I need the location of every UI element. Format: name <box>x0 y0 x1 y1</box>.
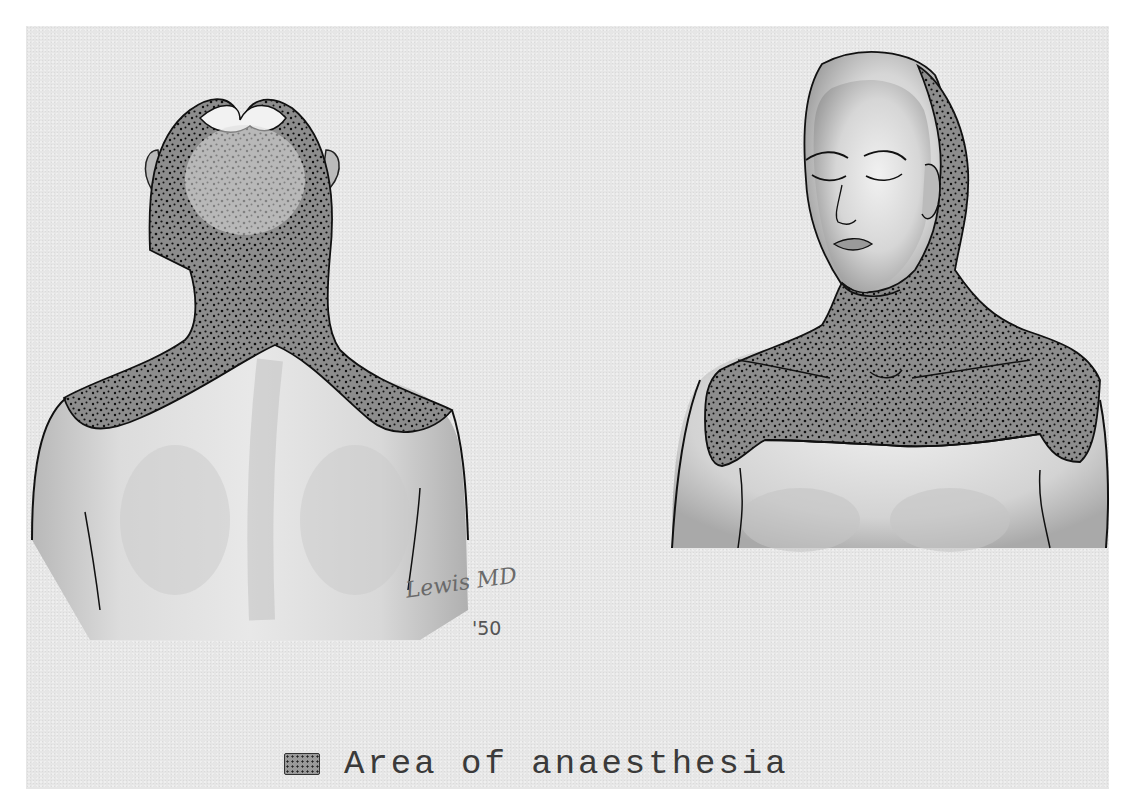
front-view-figure <box>672 52 1108 552</box>
legend-label: Area of anaesthesia <box>344 745 789 783</box>
signature-year: '50 <box>472 617 501 639</box>
legend: Area of anaesthesia <box>284 740 789 788</box>
stippled-swatch-icon <box>284 753 320 775</box>
back-view-figure <box>32 99 468 640</box>
anatomical-illustration <box>0 0 1141 809</box>
